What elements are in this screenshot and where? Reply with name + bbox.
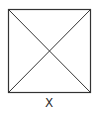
diagram-label: X	[0, 96, 95, 110]
